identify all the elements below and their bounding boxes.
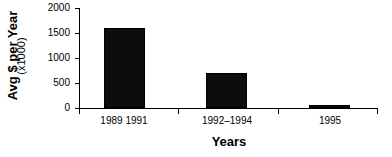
- bar-chart: Avg $ per Year (x1000) 0 500 1000 1500 2…: [0, 0, 392, 157]
- y-tick-label-0: 0: [30, 103, 70, 113]
- bar-1995: [309, 105, 350, 108]
- y-tick-label-500: 500: [30, 78, 70, 88]
- y-tick-mark-1000: [75, 58, 80, 59]
- bar-1992-1994: [206, 73, 247, 108]
- x-axis-line: [79, 108, 378, 109]
- y-tick-mark-500: [75, 83, 80, 84]
- x-category-label-2: 1995: [270, 115, 390, 127]
- x-category-label-0: 1989 1991: [64, 115, 184, 127]
- y-tick-mark-2000: [75, 8, 80, 9]
- y-tick-label-1000: 1000: [30, 53, 70, 63]
- x-category-label-1: 1992–1994: [167, 115, 287, 127]
- x-tick-mark-2: [278, 109, 279, 114]
- bar-1989-1991: [104, 28, 145, 108]
- y-tick-label-2000: 2000: [30, 3, 70, 13]
- y-tick-mark-1500: [75, 33, 80, 34]
- x-tick-mark-start: [79, 109, 80, 114]
- x-tick-mark-end: [377, 109, 378, 114]
- x-axis-title: Years: [80, 134, 378, 149]
- x-tick-mark-1: [178, 109, 179, 114]
- y-tick-label-1500: 1500: [30, 28, 70, 38]
- y-axis-units-label: (x1000): [15, 26, 27, 86]
